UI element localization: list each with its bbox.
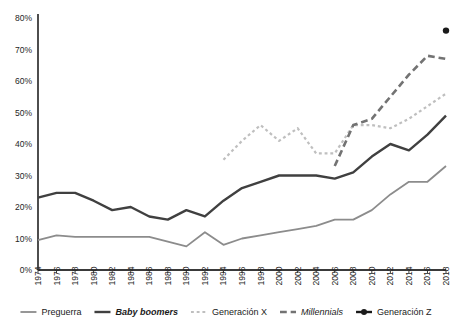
x-tick-label: 2016 [422, 266, 432, 285]
y-tick-label: 50% [15, 108, 32, 118]
legend-label-3: Millennials [301, 307, 344, 317]
y-tick-label: 30% [15, 171, 32, 181]
legend-label-1: Baby boomers [115, 307, 178, 317]
series-line-3 [335, 56, 446, 166]
data-point-4 [443, 27, 449, 33]
legend-label-2: Generación X [212, 307, 267, 317]
y-tick-label: 70% [15, 45, 32, 55]
x-tick-label: 1996 [237, 266, 247, 285]
x-tick-label: 1980 [89, 266, 99, 285]
chart-canvas: 0%10%20%30%40%50%60%70%80%19741976197819… [0, 0, 452, 331]
line-chart: 0%10%20%30%40%50%60%70%80%19741976197819… [0, 0, 452, 331]
x-tick-label: 1982 [107, 266, 117, 285]
series-line-0 [38, 166, 446, 246]
y-tick-label: 80% [15, 13, 32, 23]
y-tick-label: 40% [15, 139, 32, 149]
x-tick-label: 1992 [200, 266, 210, 285]
y-tick-label: 60% [15, 76, 32, 86]
x-tick-label: 1974 [33, 266, 43, 285]
x-tick-label: 1976 [52, 266, 62, 285]
x-tick-label: 1998 [256, 266, 266, 285]
x-tick-label: 2002 [293, 266, 303, 285]
x-tick-label: 1978 [70, 266, 80, 285]
x-tick-label: 2008 [348, 266, 358, 285]
legend-label-4: Generación Z [377, 307, 432, 317]
y-tick-label: 10% [15, 234, 32, 244]
x-tick-label: 1988 [163, 266, 173, 285]
x-tick-label: 1986 [144, 266, 154, 285]
y-tick-label: 0% [20, 265, 33, 275]
series-line-2 [223, 94, 446, 160]
y-tick-label: 20% [15, 202, 32, 212]
x-tick-label: 2004 [311, 266, 321, 285]
x-tick-label: 2000 [274, 266, 284, 285]
x-tick-label: 2012 [385, 266, 395, 285]
legend-label-0: Preguerra [41, 307, 81, 317]
x-tick-label: 1984 [126, 266, 136, 285]
legend-marker-4 [361, 309, 367, 315]
x-tick-label: 2018 [441, 266, 451, 285]
series-line-1 [38, 116, 446, 220]
x-tick-label: 1990 [181, 266, 191, 285]
x-tick-label: 2014 [404, 266, 414, 285]
x-tick-label: 2006 [330, 266, 340, 285]
x-tick-label: 1994 [218, 266, 228, 285]
x-tick-label: 2010 [367, 266, 377, 285]
